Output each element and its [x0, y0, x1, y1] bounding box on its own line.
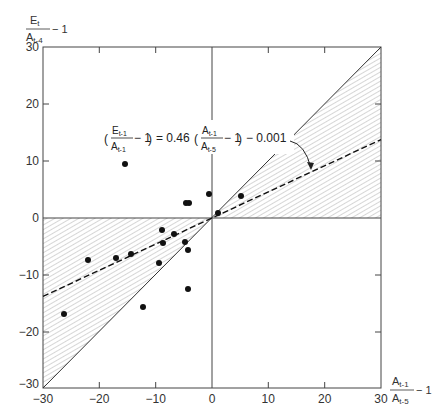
data-point — [113, 255, 119, 261]
svg-text:20: 20 — [318, 392, 332, 406]
svg-text:): ) — [238, 132, 242, 146]
svg-text:20: 20 — [26, 97, 40, 111]
data-point — [171, 231, 177, 237]
data-point — [238, 193, 244, 199]
svg-text:−20: −20 — [89, 392, 110, 406]
svg-text:At-4: At-4 — [26, 31, 43, 45]
svg-text:0: 0 — [209, 392, 216, 406]
data-point — [215, 210, 221, 216]
y-tick-labels: 30 20 10 0 −10 −20 −30 — [19, 40, 40, 391]
data-point — [128, 251, 134, 257]
svg-text:(: ( — [194, 132, 198, 146]
svg-text:−30: −30 — [33, 392, 54, 406]
regression-equation: ( Et-1 At-1 − 1 ) = 0.46 ( At-1 At-5 − 1… — [104, 120, 294, 154]
svg-text:− 1: − 1 — [52, 23, 68, 35]
data-point — [122, 161, 128, 167]
data-point — [61, 311, 67, 317]
x-tick-labels: −30 −20 −10 0 10 20 30 — [33, 392, 388, 406]
data-point — [185, 247, 191, 253]
svg-text:−30: −30 — [19, 377, 40, 391]
data-point — [186, 200, 192, 206]
svg-text:10: 10 — [262, 392, 276, 406]
y-axis-label: Et At-4 − 1 — [26, 14, 68, 45]
svg-text:− 1: − 1 — [416, 384, 432, 396]
svg-text:− 0.001: − 0.001 — [246, 131, 287, 145]
x-axis-label: At-1 At-5 − 1 — [390, 375, 432, 406]
data-point — [140, 304, 146, 310]
svg-text:−10: −10 — [146, 392, 167, 406]
data-point — [182, 239, 188, 245]
svg-text:−10: −10 — [19, 268, 40, 282]
svg-text:(: ( — [104, 132, 108, 146]
scatter-chart: −30 −20 −10 0 10 20 30 30 20 10 0 −10 −2… — [0, 0, 442, 418]
data-point — [159, 227, 165, 233]
svg-text:At-5: At-5 — [392, 392, 409, 406]
svg-text:−20: −20 — [19, 325, 40, 339]
svg-text:30: 30 — [374, 392, 388, 406]
data-point — [160, 240, 166, 246]
data-point — [156, 260, 162, 266]
svg-text:0: 0 — [32, 211, 39, 225]
svg-text:10: 10 — [26, 154, 40, 168]
data-point — [185, 286, 191, 292]
svg-text:= 0.46: = 0.46 — [156, 131, 190, 145]
svg-text:Et: Et — [30, 14, 40, 28]
data-point — [206, 191, 212, 197]
svg-text:): ) — [148, 132, 152, 146]
svg-text:At-1: At-1 — [392, 375, 409, 389]
data-point — [85, 257, 91, 263]
